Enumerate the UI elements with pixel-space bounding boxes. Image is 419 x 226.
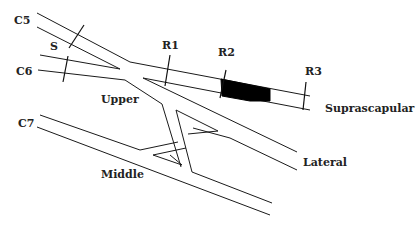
upper-trunk-anterior [125, 80, 218, 172]
suprascapular-nerve [130, 62, 310, 110]
c7-root [37, 115, 272, 215]
brachial-plexus-diagram: C5 C6 C7 S R1 R2 R3 Upper Middle Suprasc… [0, 0, 419, 226]
label-c7: C7 [18, 117, 34, 130]
marker-r1 [165, 55, 170, 86]
label-s: S [50, 40, 58, 53]
label-r3: R3 [305, 65, 322, 78]
label-middle: Middle [101, 168, 144, 181]
label-suprascapular: Suprascapular [325, 102, 415, 115]
marker-r3 [303, 82, 306, 110]
label-c6: C6 [16, 65, 33, 78]
lesion-block [221, 79, 270, 101]
label-r2: R2 [218, 46, 235, 59]
c6-root [38, 55, 125, 80]
label-lateral: Lateral [303, 156, 347, 169]
upper-trunk-posterior [143, 78, 297, 170]
label-r1: R1 [162, 39, 179, 52]
label-upper: Upper [101, 93, 139, 106]
label-c5: C5 [14, 14, 30, 27]
